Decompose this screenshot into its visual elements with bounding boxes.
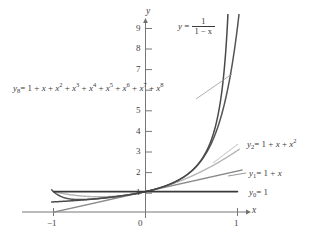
poly8-plus: +: [79, 83, 89, 93]
x-tick-label-neg-one: −1: [47, 219, 57, 228]
poly8-exponent: 3: [76, 81, 79, 88]
curve-label-poly1: y1= 1 + x: [249, 169, 282, 178]
leader-line-poly2: [213, 144, 238, 163]
x-tick-label-zero: 0: [138, 219, 143, 228]
chart-canvas: [0, 0, 330, 244]
y-tick-label-1: 1: [136, 188, 141, 197]
poly8-exponent: 7: [143, 81, 146, 88]
poly8-equals: = 1 +: [20, 83, 41, 93]
poly1-rest: = 1 +: [256, 168, 277, 178]
poly1-x: x: [278, 168, 282, 178]
y-tick-label-2: 2: [136, 168, 141, 177]
poly8-plus: +: [147, 83, 157, 93]
figure-container: y x −1 0 1 9 8 7 5 4 3 2 1 y = 1 1 − x y…: [0, 0, 330, 244]
y-axis-label: y: [146, 7, 150, 17]
poly8-plus: +: [130, 83, 140, 93]
poly8-subscript: 8: [17, 87, 20, 94]
y-tick-label-5: 5: [136, 106, 141, 115]
poly8-exponent: 2: [59, 81, 62, 88]
poly8-exponent: 5: [110, 81, 113, 88]
rational-y: y: [178, 21, 182, 31]
y-tick-label-4: 4: [136, 127, 141, 136]
y-tick-label-3: 3: [136, 147, 141, 156]
rational-numerator: 1: [192, 17, 216, 26]
y-tick-label-8: 8: [136, 44, 141, 53]
poly2-rest: = 1 +: [254, 139, 275, 149]
poly8-plus: +: [46, 83, 56, 93]
poly2-exponent: 2: [293, 137, 296, 144]
curve-label-poly0: y0= 1: [249, 188, 268, 197]
x-axis-label: x: [252, 206, 256, 216]
leader-line-poly1: [228, 173, 246, 176]
rational-equals: =: [184, 21, 189, 31]
y-axis-ticks: [146, 29, 153, 194]
poly8-terms: + x2 + x3 + x4 + x5 + x6 + x7 + x8: [46, 83, 164, 93]
poly2-subscript: 2: [251, 143, 254, 150]
poly0-rest: = 1: [256, 187, 268, 197]
poly8-x: x: [123, 83, 127, 93]
poly2-plus: +: [280, 139, 290, 149]
rational-denominator: 1 − x: [192, 26, 216, 36]
y-tick-label-7: 7: [136, 65, 141, 74]
x-tick-label-one: 1: [234, 219, 239, 228]
poly8-exponent: 6: [127, 81, 130, 88]
poly8-plus: +: [96, 83, 106, 93]
poly8-plus: +: [113, 83, 123, 93]
poly1-subscript: 1: [253, 172, 256, 179]
poly8-plus: +: [62, 83, 72, 93]
poly8-exponent: 8: [160, 81, 163, 88]
poly8-exponent: 4: [93, 81, 96, 88]
curve-label-poly2: y2= 1 + x + x2: [247, 140, 296, 149]
curve-label-rational: y = 1 1 − x: [178, 18, 215, 36]
rational-fraction: 1 1 − x: [192, 17, 216, 35]
poly0-subscript: 0: [253, 191, 256, 198]
curve-label-poly8: y8= 1 + x + x2 + x3 + x4 + x5 + x6 + x7 …: [13, 84, 163, 93]
y-tick-label-9: 9: [136, 24, 141, 33]
